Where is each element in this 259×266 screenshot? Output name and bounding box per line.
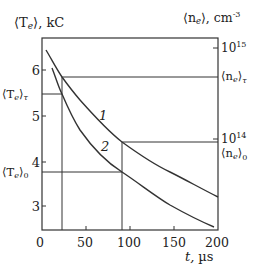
plot-frame bbox=[42, 38, 218, 230]
curve-2-label: 2 bbox=[100, 139, 109, 154]
svg-text:3: 3 bbox=[32, 199, 40, 214]
curve-1 bbox=[46, 50, 218, 197]
svg-text:100: 100 bbox=[117, 235, 141, 250]
tick-1e15-label: 1015 bbox=[221, 40, 246, 55]
x-tick-labels: 0 50 100 150 200 bbox=[36, 235, 229, 250]
x-axis-title: t,µs bbox=[185, 249, 213, 264]
y-right-axis-title: ⟨ne⟩, cm-3 bbox=[183, 10, 240, 26]
ne-tau-label: ⟨ne⟩τ bbox=[221, 69, 247, 85]
y-right-ticks bbox=[213, 48, 218, 139]
te-tau-label: ⟨Te⟩τ bbox=[2, 87, 28, 102]
ne-0-label: ⟨ne⟩0 bbox=[221, 146, 247, 162]
svg-text:0: 0 bbox=[36, 235, 44, 250]
reference-lines bbox=[42, 77, 218, 230]
svg-text:5: 5 bbox=[32, 109, 40, 124]
svg-text:200: 200 bbox=[205, 235, 229, 250]
y-left-tick-labels: 6 5 4 3 bbox=[32, 63, 40, 214]
x-axis-ticks bbox=[86, 226, 174, 230]
svg-text:150: 150 bbox=[162, 235, 186, 250]
curve-1-label: 1 bbox=[99, 108, 107, 123]
svg-text:50: 50 bbox=[77, 235, 93, 250]
chart: 1 2 0 50 100 150 200 t,µs 6 5 4 3 ⟨Te⟩, … bbox=[0, 0, 259, 266]
svg-text:6: 6 bbox=[32, 63, 40, 78]
te-0-label: ⟨Te⟩0 bbox=[2, 165, 29, 180]
tick-1e14-label: 1014 bbox=[221, 131, 246, 146]
curve-2 bbox=[52, 68, 214, 227]
y-left-axis-title: ⟨Te⟩, kC bbox=[14, 15, 64, 31]
svg-text:4: 4 bbox=[32, 155, 40, 170]
